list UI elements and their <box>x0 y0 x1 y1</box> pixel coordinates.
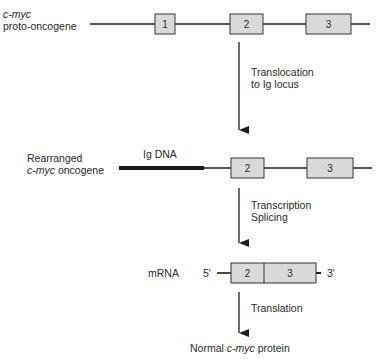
mrna-label: mRNA <box>148 267 179 279</box>
protein-prefix: Normal <box>190 342 227 354</box>
step-line-2: to Ig locus <box>251 78 314 90</box>
diagram-canvas: 1 2 3 2 3 2 3 <box>0 0 386 359</box>
label-line-1: Rearranged <box>27 152 104 164</box>
exon-3-label: 3 <box>287 268 293 279</box>
transcription-step-label: Transcription Splicing <box>251 199 311 223</box>
proto-oncogene-gene: 1 2 3 <box>90 14 370 34</box>
exon-3-label: 3 <box>326 19 332 30</box>
mrna-transcript: 2 3 <box>217 263 321 283</box>
step-line-2: Splicing <box>251 211 311 223</box>
proto-oncogene-label: c-myc proto-oncogene <box>3 8 77 32</box>
exon-2-label: 2 <box>245 268 251 279</box>
exon-2-label: 2 <box>245 163 251 174</box>
exon-3-label: 3 <box>327 163 333 174</box>
label-line-2: c-myc oncogene <box>27 164 104 176</box>
rearranged-oncogene-label: Rearranged c-myc oncogene <box>27 152 104 176</box>
three-prime-label: 3' <box>327 267 335 279</box>
gene-name: c-myc <box>227 342 255 354</box>
step-line-1: Transcription <box>251 199 311 211</box>
five-prime-label: 5' <box>203 267 211 279</box>
translation-step-label: Translation <box>251 302 303 314</box>
gene-type: oncogene <box>55 164 104 176</box>
protein-label: Normal c-myc protein <box>190 342 290 354</box>
gene-name: c-myc <box>3 8 77 20</box>
rearranged-gene: 2 3 <box>119 158 372 178</box>
protein-suffix: protein <box>255 342 290 354</box>
gene-name: c-myc <box>27 164 55 176</box>
translocation-step-label: Translocation to Ig locus <box>251 66 314 90</box>
exon-1-label: 1 <box>162 19 168 30</box>
gene-type: proto-oncogene <box>3 20 77 32</box>
exon-2-label: 2 <box>244 19 250 30</box>
ig-dna-label: Ig DNA <box>143 148 177 160</box>
step-line-1: Translocation <box>251 66 314 78</box>
